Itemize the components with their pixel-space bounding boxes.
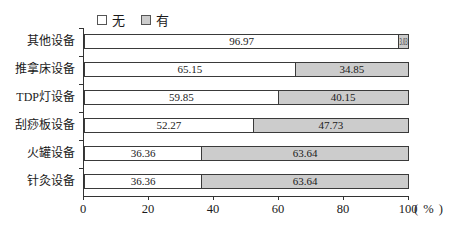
bar-segment-0: 65.15 bbox=[84, 62, 296, 77]
legend-swatch-icon bbox=[97, 15, 107, 25]
x-axis-tick-label: 60 bbox=[258, 202, 298, 217]
x-axis-tick-label: 0 bbox=[63, 202, 103, 217]
bar-segment-1: 3.03 bbox=[399, 34, 409, 49]
category-label: 其他设备 bbox=[0, 34, 75, 49]
bar-value-label: 47.73 bbox=[319, 120, 344, 131]
x-axis-tick bbox=[408, 196, 409, 200]
legend: 无有 bbox=[97, 10, 169, 29]
legend-swatch-icon bbox=[141, 15, 151, 25]
bar-segment-1: 34.85 bbox=[296, 62, 409, 77]
bar-value-label: 96.97 bbox=[229, 36, 254, 47]
bar-row: 59.8540.15 bbox=[84, 90, 409, 105]
legend-item-1: 有 bbox=[141, 10, 169, 29]
bar-segment-0: 36.36 bbox=[84, 174, 202, 189]
bar-segment-1: 63.64 bbox=[202, 174, 409, 189]
y-axis-tick bbox=[79, 56, 83, 57]
bar-value-label: 52.27 bbox=[157, 120, 182, 131]
bar-row: 65.1534.85 bbox=[84, 62, 409, 77]
bar-value-label: 40.15 bbox=[331, 92, 356, 103]
bar-segment-1: 47.73 bbox=[254, 118, 409, 133]
y-axis-tick bbox=[79, 84, 83, 85]
y-axis-tick bbox=[79, 112, 83, 113]
bar-value-label: 36.36 bbox=[131, 176, 156, 187]
bar-segment-0: 59.85 bbox=[84, 90, 279, 105]
bar-segment-0: 96.97 bbox=[84, 34, 399, 49]
category-label: TDP灯设备 bbox=[0, 90, 75, 105]
bar-row: 96.973.03 bbox=[84, 34, 409, 49]
bar-segment-1: 63.64 bbox=[202, 146, 409, 161]
bar-row: 52.2747.73 bbox=[84, 118, 409, 133]
bar-segment-0: 36.36 bbox=[84, 146, 202, 161]
y-axis-tick bbox=[79, 168, 83, 169]
bar-value-label: 59.85 bbox=[169, 92, 194, 103]
bar-segment-0: 52.27 bbox=[84, 118, 254, 133]
bar-row: 36.3663.64 bbox=[84, 146, 409, 161]
category-label: 针灸设备 bbox=[0, 174, 75, 189]
x-axis-tick-label: 40 bbox=[193, 202, 233, 217]
category-label: 刮痧板设备 bbox=[0, 118, 75, 133]
x-axis-tick bbox=[83, 196, 84, 200]
y-axis-tick bbox=[79, 28, 83, 29]
x-axis-tick bbox=[213, 196, 214, 200]
category-label: 推拿床设备 bbox=[0, 62, 75, 77]
bar-value-label: 63.64 bbox=[293, 148, 318, 159]
x-axis-tick bbox=[148, 196, 149, 200]
stacked-bar-chart: 无有 96.973.0365.1534.8559.8540.1552.2747.… bbox=[0, 0, 467, 230]
x-axis-tick-label: 80 bbox=[323, 202, 363, 217]
bar-value-label: 3.03 bbox=[400, 36, 408, 47]
y-axis-tick bbox=[79, 140, 83, 141]
bar-segment-1: 40.15 bbox=[279, 90, 409, 105]
x-axis-unit-label: ( % ) bbox=[414, 202, 444, 217]
x-axis-tick bbox=[278, 196, 279, 200]
bar-value-label: 63.64 bbox=[293, 176, 318, 187]
x-axis-tick-label: 20 bbox=[128, 202, 168, 217]
plot-area: 96.973.0365.1534.8559.8540.1552.2747.733… bbox=[83, 28, 409, 197]
category-label: 火罐设备 bbox=[0, 146, 75, 161]
bar-value-label: 65.15 bbox=[177, 64, 202, 75]
legend-item-0: 无 bbox=[97, 10, 125, 29]
bar-value-label: 34.85 bbox=[339, 64, 364, 75]
bar-value-label: 36.36 bbox=[131, 148, 156, 159]
legend-label: 无 bbox=[112, 10, 125, 29]
bar-row: 36.3663.64 bbox=[84, 174, 409, 189]
x-axis-tick bbox=[343, 196, 344, 200]
legend-label: 有 bbox=[156, 10, 169, 29]
